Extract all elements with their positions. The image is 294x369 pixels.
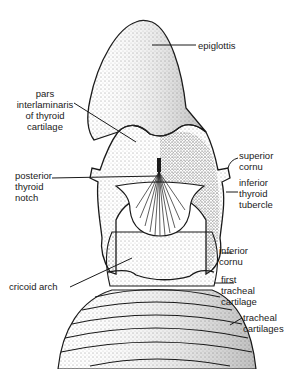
label-first-tracheal-cartilage: first tracheal cartilage [221,274,257,307]
epiglottis-shape [88,21,206,141]
label-superior-cornu: superior cornu [239,150,273,172]
label-epiglottis: epiglottis [198,40,236,51]
cricoid-cartilage [107,232,218,286]
label-posterior-thyroid-notch: posterior thyroid notch [15,170,52,203]
label-tracheal-cartilages: tracheal cartilages [243,312,284,334]
label-pars-interlaminaris: pars interlaminaris of thyroid cartilage [10,88,80,132]
label-cricoid-arch: cricoid arch [9,281,58,292]
label-inferior-cornu: inferior cornu [219,245,248,267]
label-inferior-thyroid-tubercle: inferior thyroid tubercle [239,177,273,210]
